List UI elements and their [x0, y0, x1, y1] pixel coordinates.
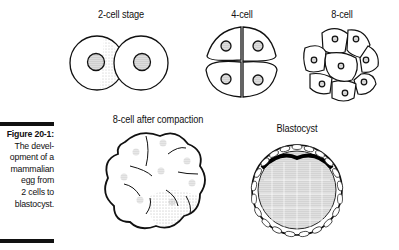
embryo-illustrations — [0, 0, 399, 250]
eight-cell-embryo — [304, 29, 379, 101]
two-cell-embryo — [70, 36, 168, 90]
four-cell-embryo — [206, 27, 277, 97]
compacted-embryo — [105, 133, 205, 228]
blastocyst-embryo — [251, 145, 344, 238]
